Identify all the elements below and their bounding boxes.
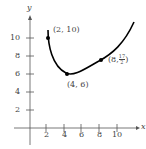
point-8-17-2 <box>99 58 103 62</box>
point-2-10 <box>46 36 50 40</box>
x-arrow-icon <box>136 126 140 130</box>
y-tick-10: 10 <box>10 33 20 42</box>
x-tick-4: 4 <box>62 130 67 139</box>
y-tick-4: 4 <box>15 87 20 96</box>
y-axis-title: y <box>27 3 32 12</box>
label-2-10: (2, 10) <box>53 25 80 34</box>
x-tick-6: 6 <box>79 130 84 139</box>
x-axis-title: x <box>141 122 146 131</box>
label-4-6: (4, 6) <box>67 80 89 89</box>
x-tick-2: 2 <box>44 130 49 139</box>
label-p3-prefix: (8, <box>108 55 119 64</box>
x-tick-8: 8 <box>97 130 102 139</box>
point-4-6 <box>65 72 69 76</box>
label-8-17-2: (8, 17 2 ) <box>108 54 128 65</box>
y-tick-8: 8 <box>15 51 20 60</box>
y-arrow-icon <box>28 15 32 20</box>
label-p3-suffix: ) <box>125 55 128 64</box>
y-tick-2: 2 <box>15 105 20 114</box>
x-tick-10: 10 <box>112 130 122 139</box>
y-tick-6: 6 <box>15 69 20 78</box>
graph-canvas <box>0 0 146 149</box>
